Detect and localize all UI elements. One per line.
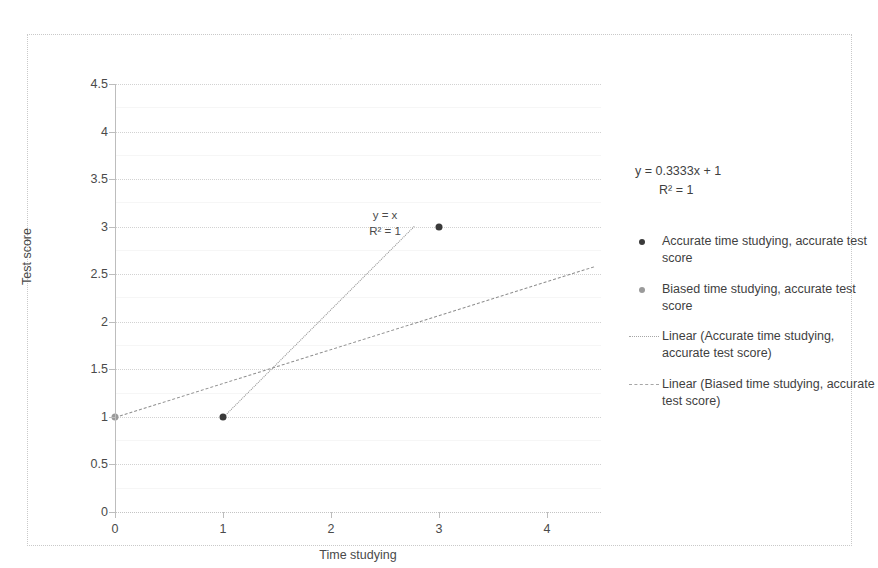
x-tick-label-1: 1: [220, 522, 227, 536]
y-tick-label-4: 4: [68, 125, 108, 139]
scan-band: [115, 202, 601, 203]
legend-label-biased: Biased time studying, accurate test scor…: [662, 281, 878, 316]
y-axis-tick-labels: 4.5 4 3.5 3 2.5 2 1.5 1 0.5 0: [60, 35, 108, 568]
gridline-1.5: [115, 369, 601, 370]
trendline-biased-dashed: [115, 266, 594, 418]
scan-artifact-text: · · ·: [328, 32, 355, 44]
y-tick-label-3.5: 3.5: [68, 172, 108, 186]
legend-item-linear-biased[interactable]: Linear (Biased time studying, accurate t…: [628, 376, 878, 411]
chart-legend: Accurate time studying, accurate test sc…: [628, 233, 878, 423]
gridline-4: [115, 132, 601, 133]
scan-band: [115, 250, 601, 251]
scan-band: [115, 488, 601, 489]
legend-label-linear-accurate: Linear (Accurate time studying, accurate…: [662, 328, 878, 363]
chart-frame: · · · y = x R² = 1: [27, 34, 852, 546]
y-tick-3: [109, 227, 115, 228]
y-axis-title: Test score: [20, 228, 34, 285]
legend-label-accurate: Accurate time studying, accurate test sc…: [662, 233, 878, 268]
x-tick-2: [331, 512, 332, 518]
y-tick-4: [109, 132, 115, 133]
gridline-2: [115, 322, 601, 323]
plot-area: y = x R² = 1: [115, 84, 601, 512]
gridline-1: [115, 417, 601, 418]
scan-band: [115, 107, 601, 108]
x-tick-3: [439, 512, 440, 518]
scan-band: [115, 440, 601, 441]
gridline-0: [115, 512, 601, 513]
y-tick-label-1.5: 1.5: [68, 362, 108, 376]
y-tick-1.5: [109, 369, 115, 370]
y-axis-line: [115, 84, 116, 512]
gridline-3.5: [115, 179, 601, 180]
y-tick-label-2: 2: [68, 315, 108, 329]
y-tick-label-4.5: 4.5: [68, 77, 108, 91]
gridline-2.5: [115, 274, 601, 275]
y-tick-1: [109, 417, 115, 418]
legend-marker-dashed-line-icon: [628, 376, 662, 393]
x-tick-1: [223, 512, 224, 518]
scan-band: [115, 297, 601, 298]
data-point-accurate-1-1[interactable]: [220, 413, 227, 420]
legend-item-linear-accurate[interactable]: Linear (Accurate time studying, accurate…: [628, 328, 878, 363]
x-tick-label-4: 4: [544, 522, 551, 536]
annotation-y-equals-x: y = x: [345, 209, 425, 221]
x-tick-label-0: 0: [112, 522, 119, 536]
x-tick-0: [115, 512, 116, 518]
x-tick-4: [547, 512, 548, 518]
legend-item-biased[interactable]: Biased time studying, accurate test scor…: [628, 281, 878, 316]
x-tick-label-3: 3: [436, 522, 443, 536]
x-axis-title: Time studying: [115, 548, 601, 562]
y-tick-label-0: 0: [68, 505, 108, 519]
y-tick-label-0.5: 0.5: [68, 457, 108, 471]
legend-marker-dot-gray-icon: [628, 281, 662, 298]
regression-equation: y = 0.3333x + 1: [635, 162, 721, 181]
legend-label-linear-biased: Linear (Biased time studying, accurate t…: [662, 376, 878, 411]
legend-marker-dot-dark-icon: [628, 233, 662, 250]
y-tick-4.5: [109, 84, 115, 85]
regression-equation-block: y = 0.3333x + 1 R² = 1: [635, 162, 721, 200]
legend-item-accurate[interactable]: Accurate time studying, accurate test sc…: [628, 233, 878, 268]
gridline-4.5: [115, 84, 601, 85]
annotation-r-squared: R² = 1: [345, 225, 425, 237]
gridline-0.5: [115, 464, 601, 465]
y-tick-2.5: [109, 274, 115, 275]
y-tick-0.5: [109, 464, 115, 465]
scan-band: [115, 155, 601, 156]
y-tick-label-2.5: 2.5: [68, 267, 108, 281]
regression-r-squared: R² = 1: [635, 181, 721, 200]
y-tick-label-1: 1: [68, 410, 108, 424]
scan-band: [115, 345, 601, 346]
y-tick-3.5: [109, 179, 115, 180]
legend-marker-dotted-line-icon: [628, 328, 662, 345]
x-tick-label-2: 2: [328, 522, 335, 536]
y-tick-2: [109, 322, 115, 323]
y-tick-label-3: 3: [68, 220, 108, 234]
data-point-accurate-3-3[interactable]: [436, 223, 443, 230]
